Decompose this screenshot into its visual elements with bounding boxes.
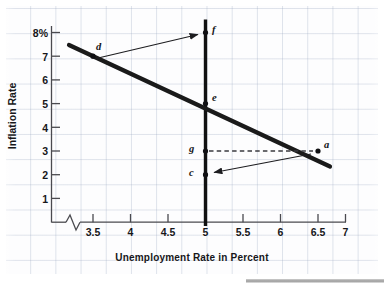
chart-figure: 8% 7 6 5 4 3 2 1 3.5 4 4.5 5 5.5 6 6.5 7… bbox=[0, 0, 384, 286]
point-label-d: d bbox=[96, 41, 101, 52]
series-short-run-phillips-curve bbox=[69, 45, 330, 167]
y-tick-label-2: 2 bbox=[22, 169, 48, 181]
page-edge-bar bbox=[246, 279, 384, 283]
data-point-f bbox=[203, 30, 208, 35]
data-point-c bbox=[203, 172, 208, 177]
y-axis-title: Inflation Rate bbox=[6, 81, 18, 151]
y-axis-ticks bbox=[52, 33, 61, 199]
x-tick-label-4-5: 4.5 bbox=[153, 226, 183, 238]
x-tick-label-4: 4 bbox=[116, 226, 146, 238]
data-point-e bbox=[203, 101, 208, 106]
y-tick-label-5: 5 bbox=[22, 98, 48, 110]
x-tick-label-6-5: 6.5 bbox=[303, 226, 333, 238]
point-label-g: g bbox=[189, 143, 194, 154]
data-point-g bbox=[203, 148, 208, 153]
annotation-arrow-a-to-c bbox=[214, 154, 311, 173]
y-tick-label-8: 8% bbox=[22, 27, 48, 39]
x-tick-label-5: 5 bbox=[191, 226, 221, 238]
y-tick-label-1: 1 bbox=[22, 193, 48, 205]
data-point-d bbox=[90, 54, 95, 59]
y-tick-label-3: 3 bbox=[22, 145, 48, 157]
data-point-a bbox=[315, 148, 320, 153]
x-axis-title: Unemployment Rate in Percent bbox=[77, 252, 307, 263]
point-label-c: c bbox=[189, 167, 194, 178]
x-tick-label-5-5: 5.5 bbox=[228, 226, 258, 238]
y-tick-label-4: 4 bbox=[22, 122, 48, 134]
point-label-e: e bbox=[212, 92, 217, 103]
annotation-arrow-d-to-f bbox=[96, 35, 198, 59]
x-tick-label-6: 6 bbox=[266, 226, 296, 238]
point-label-a: a bbox=[324, 139, 329, 150]
x-axis-ticks bbox=[93, 214, 346, 222]
point-label-f: f bbox=[212, 24, 216, 35]
y-tick-label-6: 6 bbox=[22, 74, 48, 86]
y-tick-label-7: 7 bbox=[22, 51, 48, 63]
x-tick-label-3-5: 3.5 bbox=[78, 226, 108, 238]
x-tick-label-7: 7 bbox=[331, 226, 361, 238]
